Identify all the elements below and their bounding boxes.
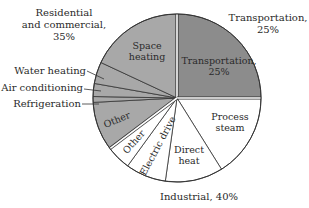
group-label-transportation: Transportation,25% (228, 12, 307, 35)
slice-label-industrial-process-steam: Processsteam (211, 111, 248, 133)
pie-chart-svg: Transportation,25%ProcesssteamDirectheat… (0, 0, 309, 208)
group-label-residential-commercial: Residentialand commercial,35% (22, 7, 106, 42)
pie-chart: Transportation,25%ProcesssteamDirectheat… (0, 0, 309, 208)
callout-label-refrigeration: Refrigeration (13, 98, 81, 109)
callout-label-water-heating: Water heating (14, 65, 86, 76)
pie-slices (93, 14, 261, 182)
slice-label-residential-and-commercial-space-heating: Spaceheating (129, 40, 165, 62)
callout-label-air-conditioning: Air conditioning (0, 82, 83, 93)
group-label-industrial: Industrial, 40% (160, 191, 238, 202)
